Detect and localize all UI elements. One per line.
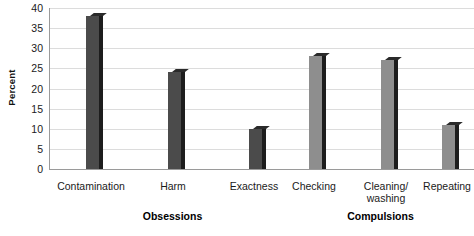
group-label: Obsessions	[143, 210, 203, 222]
bar-side-shadow	[262, 129, 266, 169]
y-axis-title-text: Percent	[6, 69, 17, 105]
group-label: Compulsions	[347, 210, 414, 222]
bar-face	[249, 129, 262, 169]
bar	[86, 16, 99, 169]
x-tick-label: Repeating	[423, 181, 471, 193]
bar-top-edge	[172, 69, 189, 72]
bar-top-edge	[446, 122, 463, 125]
ocd-symptoms-bar-chart: Percent 0510152025303540 ContaminationHa…	[0, 0, 474, 236]
bar-side-shadow	[181, 72, 185, 169]
y-tick-label: 10	[31, 124, 43, 135]
y-tick-label: 35	[31, 23, 43, 34]
y-axis-title: Percent	[0, 0, 22, 175]
y-tick-label: 25	[31, 63, 43, 74]
bar-face	[381, 60, 394, 169]
x-axis-group-labels: ObsessionsCompulsions	[49, 210, 474, 230]
y-tick-label: 5	[37, 144, 43, 155]
bar-face	[168, 72, 181, 169]
bars-layer	[50, 8, 474, 169]
bar-top-edge	[385, 57, 402, 60]
bar-face	[442, 125, 455, 169]
bar-top-edge	[90, 13, 107, 16]
y-tick-label: 30	[31, 43, 43, 54]
bar	[442, 125, 455, 169]
bar	[249, 129, 262, 169]
bar-top-edge	[253, 126, 270, 129]
y-tick-label: 15	[31, 103, 43, 114]
x-axis-category-labels: ContaminationHarmExactnessCheckingCleani…	[49, 181, 474, 209]
bar-face	[86, 16, 99, 169]
y-axis-tick-labels: 0510152025303540	[22, 8, 46, 169]
x-tick-label: Contamination	[57, 181, 125, 193]
y-tick-label: 0	[37, 164, 43, 175]
bar	[168, 72, 181, 169]
plot-area: 0510152025303540	[22, 8, 474, 178]
bar	[381, 60, 394, 169]
x-tick-label: Harm	[160, 181, 186, 193]
bar-side-shadow	[322, 56, 326, 169]
axis-frame	[49, 8, 474, 170]
bar-face	[309, 56, 322, 169]
x-tick-label: Exactness	[230, 181, 278, 193]
bar-side-shadow	[455, 125, 459, 169]
bar-side-shadow	[99, 16, 103, 169]
bar-top-edge	[313, 53, 330, 56]
x-tick-label: Checking	[292, 181, 336, 193]
y-tick-label: 40	[31, 3, 43, 14]
y-tick-label: 20	[31, 83, 43, 94]
bar-side-shadow	[394, 60, 398, 169]
x-tick-label: Cleaning/ washing	[364, 181, 408, 204]
bar	[309, 56, 322, 169]
